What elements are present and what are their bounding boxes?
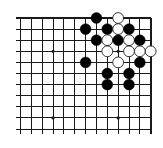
go-board[interactable]: [0, 0, 163, 148]
black-stone[interactable]: [80, 57, 91, 68]
black-stone[interactable]: [134, 57, 145, 68]
star-point: [117, 50, 120, 53]
black-stone[interactable]: [102, 79, 113, 90]
white-stone[interactable]: [145, 46, 156, 57]
black-stone[interactable]: [91, 13, 102, 24]
black-stone[interactable]: [91, 35, 102, 46]
star-point: [51, 50, 54, 53]
white-stone[interactable]: [113, 13, 124, 24]
black-stone[interactable]: [102, 68, 113, 79]
white-stone[interactable]: [134, 46, 145, 57]
black-stone[interactable]: [124, 24, 135, 35]
white-stone[interactable]: [124, 46, 135, 57]
white-stone[interactable]: [102, 35, 113, 46]
white-stone[interactable]: [113, 24, 124, 35]
black-stone[interactable]: [113, 35, 124, 46]
star-point: [51, 116, 54, 119]
go-board-canvas[interactable]: [0, 0, 163, 148]
black-stone[interactable]: [80, 24, 91, 35]
black-stone[interactable]: [134, 35, 145, 46]
black-stone[interactable]: [124, 68, 135, 79]
black-stone[interactable]: [124, 79, 135, 90]
star-point: [117, 116, 120, 119]
white-stone[interactable]: [113, 57, 124, 68]
white-stone[interactable]: [124, 35, 135, 46]
black-stone[interactable]: [102, 24, 113, 35]
white-stone[interactable]: [102, 46, 113, 57]
